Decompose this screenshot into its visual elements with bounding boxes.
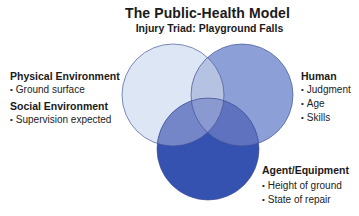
list-item: Height of ground	[262, 179, 349, 193]
list-item: Age	[301, 97, 351, 111]
list-item: State of repair	[262, 193, 349, 207]
environment-labels: Physical Environment Ground surface Soci…	[10, 70, 120, 127]
list-item: Skills	[301, 111, 351, 125]
human-labels: Human Judgment Age Skills	[301, 70, 351, 125]
list-item: Judgment	[301, 83, 351, 97]
physical-environment-heading: Physical Environment	[10, 70, 120, 83]
agent-labels: Agent/Equipment Height of ground State o…	[262, 164, 349, 207]
social-environment-heading: Social Environment	[10, 100, 120, 113]
agent-heading: Agent/Equipment	[262, 164, 349, 177]
list-item: Supervision expected	[10, 113, 120, 127]
list-item: Ground surface	[10, 83, 120, 97]
human-heading: Human	[301, 70, 351, 83]
